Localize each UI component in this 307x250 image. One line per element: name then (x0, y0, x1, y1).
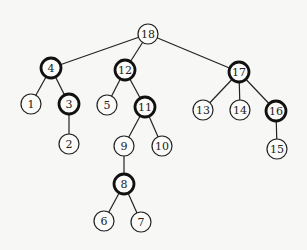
tree-node-10: 10 (152, 136, 172, 156)
edge-18-17 (148, 34, 239, 72)
node-label: 4 (48, 62, 55, 75)
tree-node-9: 9 (114, 136, 134, 156)
node-label: 7 (138, 216, 145, 229)
node-label: 13 (196, 104, 210, 117)
tree-node-3: 3 (59, 94, 79, 114)
node-label: 8 (121, 178, 128, 191)
node-label: 14 (233, 104, 247, 117)
node-label: 15 (270, 143, 284, 156)
node-label: 1 (28, 98, 35, 111)
node-label: 3 (66, 98, 73, 111)
node-label: 12 (118, 64, 132, 77)
tree-node-4: 4 (41, 58, 61, 78)
tree-node-11: 11 (135, 97, 155, 117)
node-label: 9 (121, 140, 128, 153)
node-label: 6 (101, 215, 108, 228)
node-label: 11 (138, 101, 152, 114)
tree-node-7: 7 (131, 212, 151, 232)
tree-node-13: 13 (193, 100, 213, 120)
node-label: 10 (155, 140, 169, 153)
tree-node-17: 17 (229, 62, 249, 82)
tree-node-8: 8 (114, 174, 134, 194)
tree-node-18: 18 (138, 24, 158, 44)
tree-node-14: 14 (230, 100, 250, 120)
tree-svg: 184121713251191086713141615 (0, 0, 307, 250)
node-label: 2 (66, 138, 73, 151)
tree-node-5: 5 (97, 95, 117, 115)
node-label: 5 (104, 99, 111, 112)
tree-node-6: 6 (94, 211, 114, 231)
tree-node-15: 15 (267, 139, 287, 159)
node-label: 17 (232, 66, 246, 79)
tree-node-1: 1 (21, 94, 41, 114)
tree-node-16: 16 (266, 101, 286, 121)
tree-diagram: 184121713251191086713141615 (0, 0, 307, 250)
tree-node-2: 2 (59, 134, 79, 154)
node-label: 16 (269, 105, 283, 118)
tree-node-12: 12 (115, 60, 135, 80)
node-label: 18 (141, 28, 155, 41)
